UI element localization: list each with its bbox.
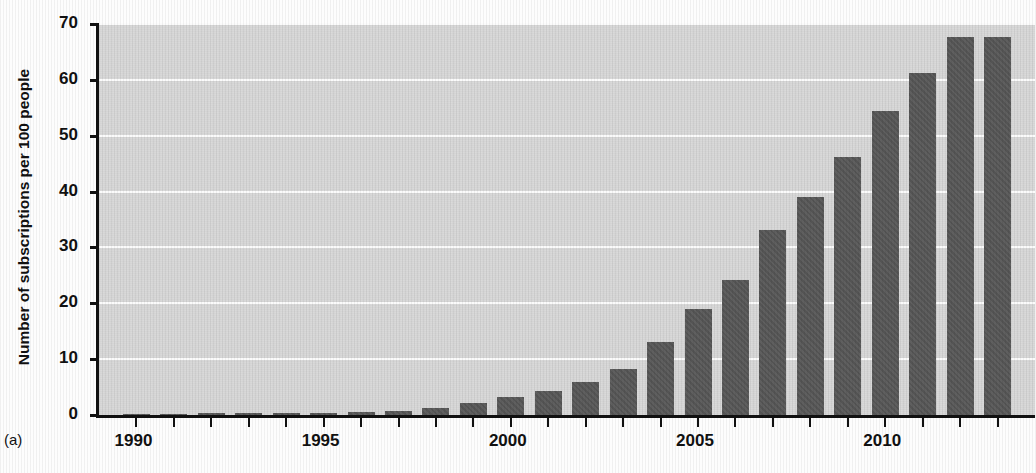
bar	[535, 391, 562, 415]
bar	[422, 408, 449, 415]
x-axis-tick-label: 2010	[863, 431, 901, 451]
y-axis-tick-label: 40	[18, 181, 78, 201]
bar	[947, 37, 974, 415]
y-axis-tick-label: 70	[18, 13, 78, 33]
x-axis-tick	[173, 415, 175, 427]
y-axis-tick-label: 50	[18, 125, 78, 145]
x-axis-tick	[772, 415, 774, 427]
x-axis-tick	[847, 415, 849, 427]
x-axis-tick	[622, 415, 624, 427]
x-axis-tick	[360, 415, 362, 427]
bar	[909, 73, 936, 415]
gridline	[99, 79, 1035, 81]
x-axis-tick-label: 2005	[676, 431, 714, 451]
x-axis-tick	[210, 415, 212, 427]
x-axis-tick	[398, 415, 400, 427]
y-axis-tick	[90, 23, 99, 26]
panel-letter: (a)	[4, 431, 22, 448]
x-axis-tick	[323, 415, 325, 427]
x-axis-tick	[585, 415, 587, 427]
bar	[759, 230, 786, 415]
bar	[722, 280, 749, 415]
x-axis-tick	[248, 415, 250, 427]
x-axis-tick	[959, 415, 961, 427]
x-axis-tick-label: 2000	[489, 431, 527, 451]
bar	[797, 197, 824, 415]
x-axis-tick	[660, 415, 662, 427]
y-axis-tick-label: 60	[18, 69, 78, 89]
x-axis-tick	[547, 415, 549, 427]
bar	[460, 403, 487, 415]
bar	[984, 37, 1011, 415]
y-axis-tick-label: 20	[18, 292, 78, 312]
y-axis-tick	[90, 79, 99, 82]
x-axis-tick-label: 1990	[115, 431, 153, 451]
y-axis-tick	[90, 135, 99, 138]
bar	[834, 157, 861, 415]
y-axis-tick	[90, 414, 99, 417]
y-axis-tick-label: 10	[18, 348, 78, 368]
x-axis-tick-label: 1995	[302, 431, 340, 451]
plot-area	[96, 24, 1035, 418]
x-axis-tick	[809, 415, 811, 427]
x-axis-tick	[922, 415, 924, 427]
bar	[685, 309, 712, 415]
figure-panel: Mobile Cellular Subscriptions Number of …	[0, 0, 1036, 473]
y-axis-tick-label: 30	[18, 236, 78, 256]
x-axis-tick	[135, 415, 137, 427]
bar	[872, 111, 899, 415]
bar	[572, 382, 599, 415]
y-axis-tick	[90, 358, 99, 361]
bar	[647, 342, 674, 415]
x-axis-tick	[435, 415, 437, 427]
y-axis-tick-label: 0	[18, 404, 78, 424]
y-axis-tick	[90, 191, 99, 194]
y-axis-tick	[90, 302, 99, 305]
bar	[497, 397, 524, 415]
x-axis-tick	[997, 415, 999, 427]
x-axis-tick	[285, 415, 287, 427]
x-axis-tick	[734, 415, 736, 427]
x-axis-tick	[510, 415, 512, 427]
x-axis-tick	[472, 415, 474, 427]
y-axis-tick	[90, 246, 99, 249]
bar	[610, 369, 637, 415]
x-axis-tick	[697, 415, 699, 427]
gridline	[99, 23, 1035, 25]
x-axis-tick	[884, 415, 886, 427]
